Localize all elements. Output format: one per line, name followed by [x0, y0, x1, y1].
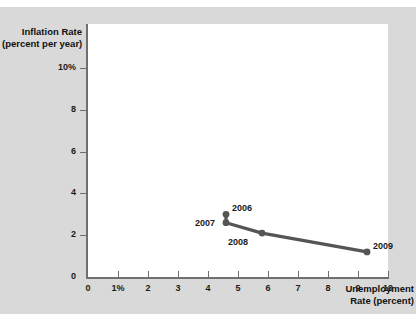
data-point-marker	[364, 249, 371, 256]
data-point-label: 2007	[195, 218, 215, 228]
chart-figure: Inflation Rate (percent per year) Unempl…	[0, 0, 416, 319]
series-layer	[0, 0, 416, 319]
data-point-label: 2009	[373, 241, 393, 251]
data-point-label: 2008	[228, 237, 248, 247]
data-point-marker	[259, 230, 266, 237]
data-point-marker	[223, 211, 230, 218]
data-point-label: 2006	[232, 203, 252, 213]
data-point-marker	[223, 219, 230, 226]
